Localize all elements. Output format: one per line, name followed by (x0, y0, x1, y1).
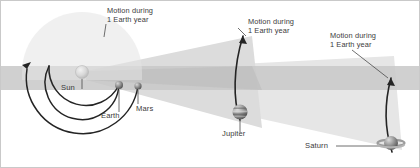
label-jupiter: Jupiter (222, 130, 246, 139)
sun-body (76, 66, 89, 79)
earth-body (115, 81, 123, 89)
annotation-motion-jupiter-line2: 1 Earth year (248, 27, 294, 36)
label-saturn: Saturn (305, 142, 328, 151)
annotation-motion-saturn: Motion during 1 Earth year (330, 32, 376, 49)
annotation-motion-saturn-line2: 1 Earth year (330, 41, 376, 50)
label-earth: Earth (101, 112, 120, 121)
orbital-motion-diagram: Motion during 1 Earth year Motion during… (0, 0, 420, 168)
label-mars: Mars (136, 105, 153, 114)
annotation-motion-earth-line2: 1 Earth year (107, 16, 153, 25)
label-sun: Sun (61, 84, 75, 93)
annotation-motion-earth: Motion during 1 Earth year (107, 7, 153, 24)
mars-body (134, 82, 141, 89)
annotation-motion-jupiter: Motion during 1 Earth year (248, 18, 294, 35)
